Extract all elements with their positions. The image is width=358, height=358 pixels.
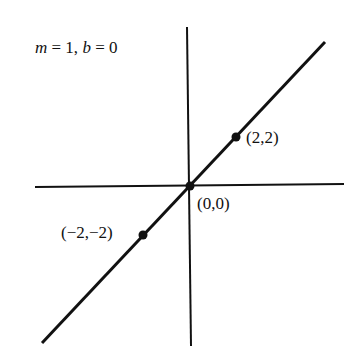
eq-part-2: = 0 (91, 38, 118, 57)
point-label-2-2: (2,2) (246, 128, 279, 148)
point-origin (186, 182, 195, 191)
point-label-origin: (0,0) (197, 194, 230, 214)
equation-label: m = 1, b = 0 (35, 38, 117, 58)
line-y-equals-x (42, 42, 325, 343)
point-2-2 (232, 133, 241, 142)
point-neg2-neg2 (139, 231, 148, 240)
var-m: m (35, 38, 47, 57)
var-b: b (82, 38, 91, 57)
point-label-neg2-neg2: (−2,−2) (61, 223, 113, 243)
eq-part-1: = 1, (47, 38, 82, 57)
